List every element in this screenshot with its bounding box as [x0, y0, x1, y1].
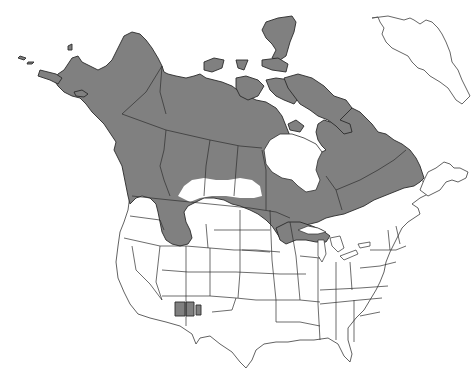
range-ellesmere-island: [262, 16, 296, 60]
greenland-outline: [372, 16, 470, 104]
range-map: :root{--range:#808080}: [0, 0, 472, 375]
range-southwest-patch-3: [196, 305, 201, 315]
maritimes-land: [420, 162, 468, 196]
range-southampton-island: [288, 120, 304, 132]
range-southwest-patch-1: [175, 302, 185, 316]
range-southwest-patch-2: [186, 302, 194, 316]
range-alaska-peninsula: [38, 70, 62, 84]
range-aleutian-islands: [18, 56, 34, 64]
